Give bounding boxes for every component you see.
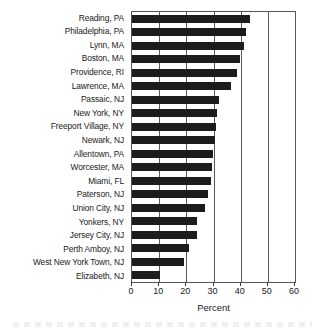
- bar: [132, 244, 189, 252]
- bar: [132, 15, 250, 23]
- bar: [132, 190, 208, 198]
- bar-row: [132, 134, 295, 148]
- bar-row: [132, 120, 295, 134]
- bar: [132, 217, 197, 225]
- bar-row: [132, 80, 295, 94]
- category-label: Union City, NJ: [0, 201, 128, 215]
- category-label: Allentown, PA: [0, 147, 128, 161]
- category-axis-labels: Reading, PAPhiladelphia, PALynn, MABosto…: [0, 11, 128, 283]
- category-label: New York, NY: [0, 106, 128, 120]
- category-label: Lynn, MA: [0, 38, 128, 52]
- category-label: Jersey City, NJ: [0, 229, 128, 243]
- bar: [132, 96, 219, 104]
- bar-row: [132, 26, 295, 40]
- bar-row: [132, 269, 295, 283]
- category-label: West New York Town, NJ: [0, 256, 128, 270]
- bar: [132, 258, 184, 266]
- bar-row: [132, 242, 295, 256]
- category-label: Boston, MA: [0, 52, 128, 66]
- bar: [132, 177, 211, 185]
- bar-row: [132, 201, 295, 215]
- bar: [132, 163, 212, 171]
- x-tick-label: 30: [207, 287, 217, 296]
- bar: [132, 82, 231, 90]
- bar: [132, 204, 205, 212]
- bar-row: [132, 39, 295, 53]
- category-label: Newark, NJ: [0, 133, 128, 147]
- bar: [132, 231, 197, 239]
- x-tick-label: 0: [128, 287, 133, 296]
- x-tick-label: 20: [180, 287, 190, 296]
- category-label: Yonkers, NY: [0, 215, 128, 229]
- x-tick-label: 60: [289, 287, 299, 296]
- category-label: Perth Amboy, NJ: [0, 242, 128, 256]
- category-label: Passaic, NJ: [0, 93, 128, 107]
- scan-artifact: [8, 322, 312, 327]
- bar-series: [132, 12, 295, 282]
- bar-row: [132, 188, 295, 202]
- bar-row: [132, 174, 295, 188]
- bar: [132, 150, 213, 158]
- bar-row: [132, 93, 295, 107]
- bar-row: [132, 255, 295, 269]
- bar-row: [132, 228, 295, 242]
- x-tick-label: 10: [153, 287, 163, 296]
- x-tick-label: 50: [262, 287, 272, 296]
- bar: [132, 136, 215, 144]
- category-label: Lawrence, MA: [0, 79, 128, 93]
- bar-row: [132, 12, 295, 26]
- category-label: Reading, PA: [0, 11, 128, 25]
- bar-row: [132, 147, 295, 161]
- category-label: Miami, FL: [0, 174, 128, 188]
- bar: [132, 123, 216, 131]
- bar-row: [132, 161, 295, 175]
- category-label: Philadelphia, PA: [0, 25, 128, 39]
- bar: [132, 55, 240, 63]
- bar: [132, 69, 237, 77]
- category-label: Freeport Village, NY: [0, 120, 128, 134]
- bar: [132, 28, 246, 36]
- bar-chart: Reading, PAPhiladelphia, PALynn, MABosto…: [0, 0, 320, 331]
- bar: [132, 271, 160, 279]
- category-label: Providence, RI: [0, 65, 128, 79]
- category-label: Worcester, MA: [0, 161, 128, 175]
- x-tick-label: 40: [235, 287, 245, 296]
- bar: [132, 42, 244, 50]
- category-label: Elizabeth, NJ: [0, 269, 128, 283]
- bar-row: [132, 66, 295, 80]
- plot-area: [131, 11, 296, 283]
- bar: [132, 109, 217, 117]
- bar-row: [132, 53, 295, 67]
- x-axis-title: Percent: [131, 303, 296, 313]
- category-label: Paterson, NJ: [0, 188, 128, 202]
- bar-row: [132, 215, 295, 229]
- bar-row: [132, 107, 295, 121]
